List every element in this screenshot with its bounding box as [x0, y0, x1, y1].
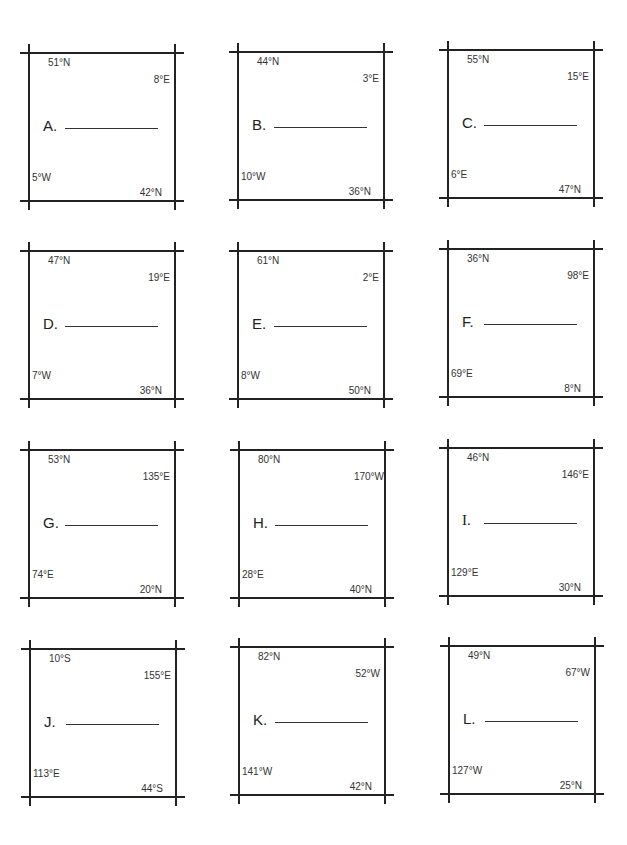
box-letter: J.: [44, 713, 56, 730]
right-longitude-line: [594, 637, 596, 803]
top-latitude-label: 10°S: [49, 653, 71, 664]
top-latitude-label: 46°N: [467, 452, 489, 463]
bottom-latitude-line: [20, 200, 184, 202]
bottom-latitude-line: [440, 793, 604, 795]
left-longitude-line: [447, 439, 449, 605]
bottom-latitude-label: 36°N: [349, 186, 371, 197]
map-box-g: 53°N 135°E G. 74°E 20°N: [28, 449, 176, 599]
answer-blank[interactable]: [66, 724, 159, 725]
left-longitude-line: [447, 41, 449, 207]
top-latitude-label: 47°N: [48, 255, 70, 266]
left-longitude-line: [448, 637, 450, 803]
left-longitude-line: [237, 43, 239, 209]
map-box-f: 36°N 98°E F. 69°E 8°N: [447, 248, 595, 398]
box-letter: B.: [252, 116, 266, 133]
bottom-latitude-line: [229, 199, 393, 201]
left-longitude-line: [28, 441, 30, 607]
map-box-d: 47°N 19°E D. 7°W 36°N: [28, 250, 176, 400]
bottom-latitude-label: 47°N: [559, 184, 581, 195]
box-letter: A.: [43, 117, 57, 134]
map-box-j: 10°S 155°E J. 113°E 44°S: [29, 648, 177, 798]
answer-blank[interactable]: [484, 125, 577, 126]
top-latitude-label: 55°N: [467, 54, 489, 65]
left-longitude-label: 74°E: [32, 569, 54, 580]
left-longitude-label: 69°E: [451, 368, 473, 379]
map-box-i: 46°N 146°E I. 129°E 30°N: [447, 447, 595, 597]
top-latitude-line: [439, 447, 603, 449]
top-latitude-line: [21, 648, 185, 650]
bottom-latitude-line: [21, 796, 185, 798]
answer-blank[interactable]: [275, 722, 368, 723]
bottom-latitude-line: [230, 794, 394, 796]
right-longitude-label: 52°W: [355, 668, 380, 679]
answer-blank[interactable]: [485, 721, 578, 722]
top-latitude-line: [20, 250, 184, 252]
top-latitude-line: [439, 248, 603, 250]
right-longitude-line: [384, 638, 386, 804]
right-longitude-line: [174, 441, 176, 607]
top-latitude-label: 82°N: [258, 651, 280, 662]
right-longitude-line: [593, 439, 595, 605]
right-longitude-line: [383, 43, 385, 209]
right-longitude-label: 135°E: [143, 471, 170, 482]
right-longitude-line: [593, 41, 595, 207]
left-longitude-label: 127°W: [452, 765, 482, 776]
bottom-latitude-label: 25°N: [560, 780, 582, 791]
right-longitude-label: 98°E: [567, 270, 589, 281]
answer-blank[interactable]: [65, 525, 158, 526]
right-longitude-label: 146°E: [562, 469, 589, 480]
left-longitude-label: 7°W: [32, 370, 51, 381]
bottom-latitude-line: [439, 396, 603, 398]
map-box-c: 55°N 15°E C. 6°E 47°N: [447, 49, 595, 199]
bottom-latitude-label: 8°N: [564, 383, 581, 394]
right-longitude-label: 3°E: [363, 73, 379, 84]
box-letter: G.: [43, 514, 59, 531]
answer-blank[interactable]: [65, 326, 158, 327]
answer-blank[interactable]: [275, 525, 368, 526]
map-box-h: 80°N 170°W H. 28°E 40°N: [238, 449, 386, 599]
top-latitude-label: 36°N: [467, 253, 489, 264]
box-letter: C.: [462, 114, 477, 131]
left-longitude-line: [237, 242, 239, 408]
left-longitude-label: 113°E: [33, 768, 60, 779]
top-latitude-line: [229, 250, 393, 252]
box-letter: E.: [252, 315, 266, 332]
top-latitude-line: [20, 449, 184, 451]
right-longitude-label: 67°W: [565, 667, 590, 678]
right-longitude-label: 170°W: [354, 471, 384, 482]
left-longitude-label: 129°E: [451, 567, 478, 578]
bottom-latitude-line: [229, 398, 393, 400]
map-box-e: 61°N 2°E E. 8°W 50°N: [237, 250, 385, 400]
top-latitude-line: [440, 645, 604, 647]
map-box-l: 49°N 67°W L. 127°W 25°N: [448, 645, 596, 795]
left-longitude-label: 141°W: [242, 766, 272, 777]
bottom-latitude-label: 30°N: [559, 582, 581, 593]
map-box-a: 51°N 8°E A. 5°W 42°N: [28, 52, 176, 202]
answer-blank[interactable]: [484, 324, 577, 325]
box-letter: H.: [253, 514, 268, 531]
right-longitude-label: 155°E: [144, 670, 171, 681]
top-latitude-line: [229, 51, 393, 53]
left-longitude-line: [29, 640, 31, 806]
top-latitude-line: [230, 646, 394, 648]
left-longitude-line: [28, 242, 30, 408]
box-letter: L.: [463, 710, 476, 727]
answer-blank[interactable]: [274, 127, 367, 128]
bottom-latitude-label: 42°N: [350, 781, 372, 792]
box-letter: K.: [253, 711, 267, 728]
left-longitude-label: 6°E: [451, 169, 467, 180]
answer-blank[interactable]: [274, 326, 367, 327]
bottom-latitude-label: 20°N: [140, 584, 162, 595]
bottom-latitude-line: [20, 597, 184, 599]
top-latitude-line: [20, 52, 184, 54]
answer-blank[interactable]: [484, 523, 577, 524]
right-longitude-label: 8°E: [154, 74, 170, 85]
top-latitude-label: 61°N: [257, 255, 279, 266]
top-latitude-label: 44°N: [257, 56, 279, 67]
top-latitude-label: 49°N: [468, 650, 490, 661]
right-longitude-line: [174, 44, 176, 210]
answer-blank[interactable]: [65, 128, 158, 129]
bottom-latitude-label: 42°N: [140, 187, 162, 198]
left-longitude-line: [238, 638, 240, 804]
top-latitude-label: 53°N: [48, 454, 70, 465]
